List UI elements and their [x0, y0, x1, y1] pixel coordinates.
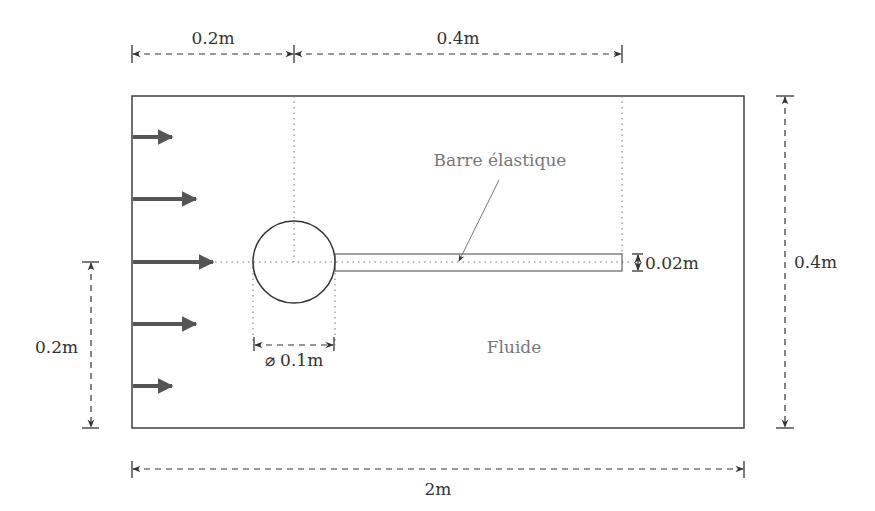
- bar-label-pointer: [459, 180, 499, 261]
- inflow-arrows: [133, 137, 213, 386]
- dim-bar-thickness-label: 0.02m: [645, 253, 699, 273]
- dim-cylinder-diameter-label: ⌀ 0.1m: [265, 350, 324, 370]
- fsi-benchmark-diagram: 0.2m 0.4m 0.4m 0.2m 0.02m ⌀ 0.1m 2m Barr…: [0, 0, 875, 511]
- dim-inflow-height-label: 0.2m: [35, 337, 78, 357]
- dim-cylinder-offset-label: 0.2m: [191, 28, 234, 48]
- dim-domain-height-label: 0.4m: [794, 252, 837, 272]
- dim-domain-length-label: 2m: [425, 479, 452, 499]
- fluid-label: Fluide: [487, 337, 542, 357]
- bar-label: Barre élastique: [434, 150, 567, 170]
- dim-bar-length-label: 0.4m: [436, 28, 479, 48]
